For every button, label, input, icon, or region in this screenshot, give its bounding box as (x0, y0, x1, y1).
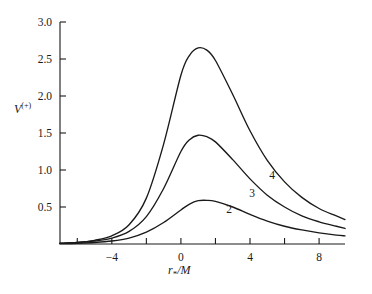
x-tick-label: 0 (178, 251, 184, 263)
curve-labels-group: 432 (226, 169, 275, 215)
y-tick-label: 3.0 (38, 16, 53, 28)
curves-group (60, 48, 345, 244)
y-tick-label: 1.0 (38, 164, 53, 176)
curve-label-3: 3 (249, 187, 255, 199)
y-axis-label: V(+) (14, 101, 31, 117)
x-axis-label: r*/M (168, 263, 191, 279)
x-tick-label: 8 (316, 251, 322, 263)
x-tick-label: 4 (247, 251, 253, 263)
plot-svg: 3.02.52.01.51.00.5−4048 432 (0, 0, 372, 294)
x-tick-label: −4 (106, 251, 118, 263)
curve-l-3 (60, 135, 345, 243)
axes-group (60, 22, 345, 244)
y-axis-label-superscript: (+) (21, 101, 31, 110)
y-tick-label: 0.5 (38, 201, 53, 213)
axis-spines (60, 22, 345, 244)
x-axis-label-tail: /M (177, 263, 190, 277)
curve-label-4: 4 (269, 169, 275, 181)
curve-label-2: 2 (226, 203, 232, 215)
tick-labels-group: 3.02.52.01.51.00.5−4048 (38, 16, 323, 263)
y-tick-label: 2.0 (38, 90, 53, 102)
curve-l-2 (60, 200, 345, 243)
y-tick-label: 2.5 (38, 53, 53, 65)
figure-container: 3.02.52.01.51.00.5−4048 432 V(+) r*/M (0, 0, 372, 294)
curve-l-4 (60, 48, 345, 244)
y-tick-label: 1.5 (38, 127, 53, 139)
